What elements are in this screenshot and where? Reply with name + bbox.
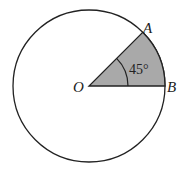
circle-sector-figure [0,0,185,171]
angle-label: 45° [129,63,149,77]
label-b: B [167,80,176,95]
label-a: A [143,21,152,36]
label-o: O [73,80,84,95]
diagram: O A B 45° [0,0,185,171]
